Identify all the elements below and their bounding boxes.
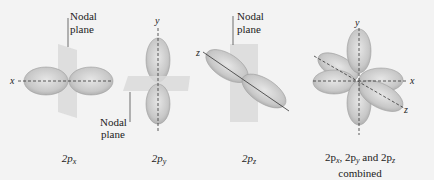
caption-2py: 2py (134, 152, 184, 168)
panel-2pz: z Nodal plane (195, 10, 292, 122)
panel-2px: x Nodal plane (9, 10, 113, 118)
axis-label-y: y (154, 15, 160, 26)
lobe-x-neg (313, 70, 355, 94)
nodal-label: Nodal (237, 10, 264, 22)
nodal-label: Nodal (70, 10, 97, 22)
caption-combined: 2px, 2py and 2pz combined (310, 151, 410, 179)
nodal-label: plane (237, 23, 261, 35)
panel-combined: y x z (313, 17, 415, 135)
caption-2px: 2px (44, 152, 94, 168)
axis-label-y: y (354, 17, 360, 28)
axis-label-x: x (9, 75, 15, 86)
nodal-label: plane (101, 128, 125, 140)
caption-combined-line2: combined (310, 167, 410, 179)
nodal-label: plane (70, 23, 94, 35)
panel-2py: y Nodal plane (100, 15, 190, 140)
caption-2pz: 2pz (224, 152, 274, 168)
axis-label-z: z (195, 47, 200, 58)
axis-label-x: x (409, 75, 415, 86)
caption-combined-line1: 2px, 2py and 2pz (310, 151, 410, 167)
nodal-label: Nodal (100, 116, 127, 128)
axis-label-z: z (403, 104, 408, 115)
